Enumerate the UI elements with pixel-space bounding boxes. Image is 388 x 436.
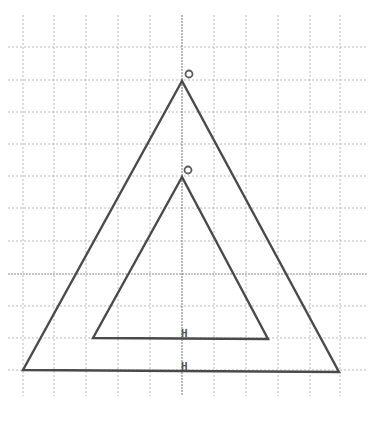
base-midpoint-label: H	[181, 327, 188, 340]
geometry-diagram: HH	[0, 0, 388, 436]
base-midpoint-label: H	[181, 360, 188, 373]
